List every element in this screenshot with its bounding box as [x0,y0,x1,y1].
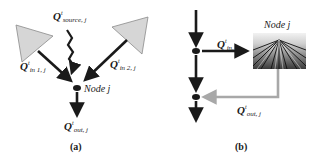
field-image [253,33,306,69]
label-q-in-2: Qtin 2, j [110,58,136,72]
label-q-in-1: Qtin 1, j [20,60,46,74]
label-q-source: Qtsource, j [53,10,86,24]
return-node-dot [192,94,200,100]
node-j-label: Node j [84,84,110,94]
wavy-source-arrow [67,30,74,72]
node-dot [73,85,81,91]
caption-b: (b) [235,141,247,152]
upstream-triangle-1 [16,25,53,62]
caption-a: (a) [70,141,82,152]
label-q-out-b: Qtout, j [237,104,261,118]
panel-a-confluence-diagram: Qtsource, j Qtin 1, j Qtin 2, j Node j Q… [0,0,161,159]
panel-b-diversion-diagram: Node j Qtin, j Qtout, j (b) [161,0,322,159]
label-q-in: Qtin, j [217,38,238,52]
return-flow-arrow [205,69,278,97]
node-j-label-b: Node j [264,20,290,30]
label-q-out: Qtout, j [64,120,88,134]
panel-b-graphics [161,0,322,159]
diversion-node-dot [192,48,200,54]
